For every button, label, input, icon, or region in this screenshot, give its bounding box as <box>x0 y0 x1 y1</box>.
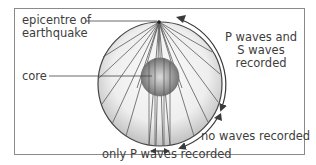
p-s-arc-arrowhead-top <box>176 15 186 23</box>
epicentre-dot <box>157 20 161 24</box>
core-label: core <box>22 70 47 83</box>
p-and-s-waves-label: P waves and S waves recorded <box>224 31 298 70</box>
epicentre-label-line2: earthquake <box>22 27 91 40</box>
no-waves-label: no waves recorded <box>201 130 310 143</box>
epicentre-label: epicentre of earthquake <box>22 14 91 40</box>
only-p-waves-label: only P waves recorded <box>102 148 232 161</box>
shadow-zone-arrowhead-top <box>214 113 222 121</box>
p-and-s-line3: recorded <box>224 57 298 70</box>
